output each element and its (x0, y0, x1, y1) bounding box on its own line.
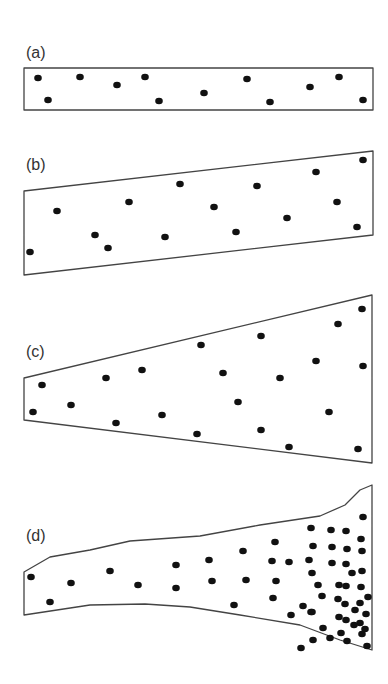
particle-dot (308, 609, 316, 615)
particle-dot (172, 562, 180, 568)
particle-dot (193, 431, 201, 437)
particle-dot (38, 382, 46, 388)
particle-dot (334, 321, 342, 327)
particle-dot (357, 536, 365, 542)
particle-dot (219, 370, 227, 376)
particle-dot (230, 602, 238, 608)
particle-dot (134, 582, 142, 588)
particle-dot (253, 183, 261, 189)
particle-dot (363, 643, 371, 649)
particle-dot (208, 578, 216, 584)
particle-dot (205, 557, 213, 563)
panel-outline (24, 151, 373, 275)
particle-dot (358, 568, 366, 574)
particle-dot (44, 97, 52, 103)
particle-dot (333, 199, 341, 205)
panel-outline (24, 485, 372, 650)
diagram-canvas (0, 0, 388, 684)
panel-a (24, 68, 373, 110)
particle-dot (26, 249, 34, 255)
particle-dot (359, 363, 367, 369)
particle-dot (200, 90, 208, 96)
particle-dot (112, 420, 120, 426)
particle-dot (234, 399, 242, 405)
particle-dot (358, 548, 366, 554)
particle-dot (343, 638, 351, 644)
particle-dot (210, 204, 218, 210)
particle-dot (328, 544, 336, 550)
particle-dot (354, 446, 362, 452)
particle-dot (348, 570, 356, 576)
particle-dot (319, 625, 327, 631)
particle-dot (353, 224, 361, 230)
particle-dot (242, 577, 250, 583)
particle-dot (325, 409, 333, 415)
particle-dot (27, 574, 35, 580)
particle-dot (328, 560, 336, 566)
particle-dot (176, 181, 184, 187)
particle-dot (269, 595, 277, 601)
particle-dot (104, 245, 112, 251)
particle-dot (285, 444, 293, 450)
particle-dot (91, 232, 99, 238)
particle-dot (326, 635, 334, 641)
particle-dot (272, 578, 280, 584)
particle-dot (359, 157, 367, 163)
particle-dot (53, 208, 61, 214)
particle-dot (342, 583, 350, 589)
particle-dot (102, 375, 110, 381)
panel-d (24, 485, 372, 651)
particle-dot (287, 612, 295, 618)
particle-dot (357, 584, 365, 590)
particle-dot (266, 99, 274, 105)
particle-dot (364, 594, 372, 600)
particle-dot (67, 580, 75, 586)
particle-dot (312, 169, 320, 175)
particle-dot (335, 582, 343, 588)
particle-dot (305, 557, 313, 563)
particle-dot (232, 229, 240, 235)
particle-dot (335, 614, 343, 620)
particle-dot (125, 199, 133, 205)
particle-dot (29, 409, 37, 415)
panel-b (24, 151, 373, 275)
particle-dot (106, 568, 114, 574)
panel-outline (24, 68, 373, 110)
particle-dot (358, 306, 366, 312)
particle-dot (356, 600, 364, 606)
panel-c (24, 295, 372, 463)
particle-dot (34, 75, 42, 81)
particle-dot (335, 74, 343, 80)
particle-dot (312, 358, 320, 364)
particle-dot (285, 559, 293, 565)
particle-dot (350, 622, 358, 628)
particle-dot (342, 617, 350, 623)
particle-dot (351, 607, 359, 613)
particle-dot (161, 234, 169, 240)
particle-dot (343, 546, 351, 552)
particle-dot (341, 601, 349, 607)
particle-dot (243, 76, 251, 82)
particle-dot (342, 528, 350, 534)
particle-dot (297, 645, 305, 651)
particle-dot (271, 539, 279, 545)
particle-dot (113, 82, 121, 88)
particle-dot (76, 74, 84, 80)
particle-dot (197, 342, 205, 348)
particle-dot (334, 596, 342, 602)
particle-dot (239, 548, 247, 554)
particle-dot (309, 543, 317, 549)
particle-dot (155, 98, 163, 104)
particle-dot (308, 570, 316, 576)
particle-dot (361, 626, 369, 632)
particle-dot (359, 97, 367, 103)
panel-outline (24, 295, 372, 463)
particle-dot (307, 525, 315, 531)
particle-dot (318, 593, 326, 599)
particle-dot (337, 630, 345, 636)
particle-dot (362, 611, 370, 617)
particle-dot (138, 367, 146, 373)
particle-dot (46, 599, 54, 605)
particle-dot (158, 412, 166, 418)
particle-dot (141, 74, 149, 80)
